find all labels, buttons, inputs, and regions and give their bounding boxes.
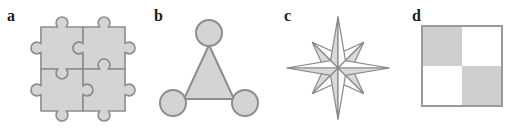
jigsaw-puzzle-illustration	[30, 16, 136, 122]
checkerboard-square	[421, 25, 503, 107]
west-point-top-half	[287, 61, 338, 68]
panel-label-a: a	[7, 8, 15, 24]
checker-quadrant-top-left	[423, 27, 462, 66]
west-point-bottom-half	[287, 68, 338, 75]
triangle-with-circles-illustration	[158, 18, 262, 120]
north-point-left-half	[331, 17, 338, 68]
triangle	[184, 45, 234, 99]
south-point-left-half	[331, 68, 338, 119]
checker-quadrant-bottom-left	[423, 66, 462, 105]
checker-quadrant-bottom-right	[462, 66, 501, 105]
cardinal-points	[287, 17, 390, 120]
east-point-bottom-half	[338, 68, 389, 75]
bottom-right-circle	[232, 90, 258, 116]
panel-label-d: d	[412, 8, 421, 24]
puzzle-pieces	[31, 17, 135, 121]
compass-rose-illustration	[282, 12, 394, 124]
east-point-top-half	[338, 61, 389, 68]
south-point-right-half	[338, 68, 345, 119]
north-point-right-half	[338, 17, 345, 68]
top-circle	[196, 20, 222, 46]
checker-quadrant-top-right	[462, 27, 501, 66]
bottom-left-circle	[160, 90, 186, 116]
